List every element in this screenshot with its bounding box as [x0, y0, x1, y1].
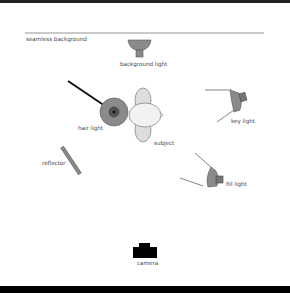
- hair-light-label: hair light: [78, 125, 104, 132]
- background-light-label: background light: [120, 61, 168, 68]
- subject-icon: [129, 88, 163, 142]
- fill-light-label: fill light: [226, 181, 248, 188]
- background-light-icon: [128, 40, 151, 57]
- lighting-diagram: seamless background background light hai…: [0, 0, 290, 293]
- hair-light-icon: [100, 98, 128, 126]
- key-light-label: key light: [231, 118, 256, 125]
- reflector-label: reflector: [42, 160, 66, 166]
- camera-icon: [133, 243, 157, 258]
- subject-label: subject: [154, 140, 175, 147]
- bottom-border: [0, 286, 290, 293]
- fill-light-icon: [180, 153, 223, 187]
- seamless-background-label: seamless background: [26, 36, 87, 43]
- camera-label: camera: [137, 260, 158, 266]
